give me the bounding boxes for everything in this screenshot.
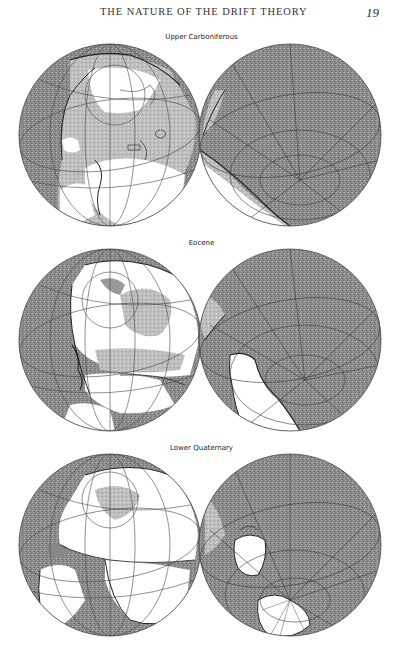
globe-eastern-hemisphere — [193, 454, 386, 640]
globe-western-hemisphere — [15, 454, 205, 636]
globe-eastern-hemisphere — [193, 249, 386, 431]
globe-eastern-hemisphere — [193, 44, 386, 226]
running-title: THE NATURE OF THE DRIFT THEORY — [100, 6, 308, 17]
figure-lower-quaternary — [0, 450, 403, 642]
page-number: 19 — [366, 5, 379, 21]
figure-upper-carboniferous — [0, 40, 403, 232]
globe-western-hemisphere — [15, 44, 205, 230]
figure-eocene — [0, 245, 403, 437]
globe-western-hemisphere — [15, 249, 205, 431]
running-head: THE NATURE OF THE DRIFT THEORY 19 — [0, 6, 403, 22]
